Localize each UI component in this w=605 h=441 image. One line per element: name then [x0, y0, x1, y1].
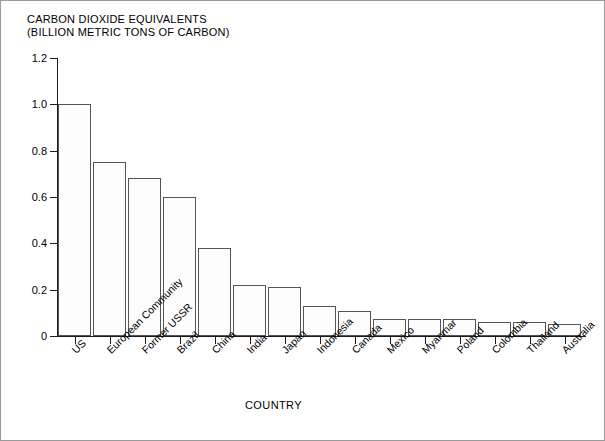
y-axis-tick	[50, 151, 57, 152]
bar	[233, 285, 266, 336]
chart-figure: CARBON DIOXIDE EQUIVALENTS (BILLION METR…	[0, 0, 605, 441]
x-axis-title: COUNTRY	[245, 399, 302, 411]
bar	[58, 104, 91, 336]
y-axis-tick-label-wrap: 0.4	[1, 238, 47, 249]
y-axis-tick-label-wrap: 1.2	[1, 53, 47, 64]
y-axis-tick-label-wrap: 0.8	[1, 146, 47, 157]
y-axis-tick	[50, 336, 57, 337]
x-axis-category-label: US	[70, 338, 88, 356]
y-axis-tick-label: 0.6	[3, 192, 47, 203]
y-axis-tick-label: 0.4	[3, 238, 47, 249]
y-axis-tick	[50, 290, 57, 291]
y-axis-tick-label: 0.2	[3, 285, 47, 296]
bar	[198, 248, 231, 336]
bar	[93, 162, 126, 336]
y-axis-tick-label: 0.8	[3, 146, 47, 157]
y-axis-tick-label: 0	[3, 331, 47, 342]
y-axis-tick-label-wrap: 1.0	[1, 99, 47, 110]
y-axis-tick-label-wrap: 0.6	[1, 192, 47, 203]
y-axis-tick-label: 1.0	[3, 99, 47, 110]
y-axis-tick	[50, 104, 57, 105]
y-axis-tick-label-wrap: 0.2	[1, 285, 47, 296]
y-axis-tick-label-wrap: 0	[1, 331, 47, 342]
y-axis-tick-label: 1.2	[3, 53, 47, 64]
y-axis-tick	[50, 197, 57, 198]
y-axis-tick	[50, 243, 57, 244]
plot-area: 00.20.40.60.81.01.2 USEuropean Community…	[1, 1, 605, 441]
y-axis-tick	[50, 58, 57, 59]
